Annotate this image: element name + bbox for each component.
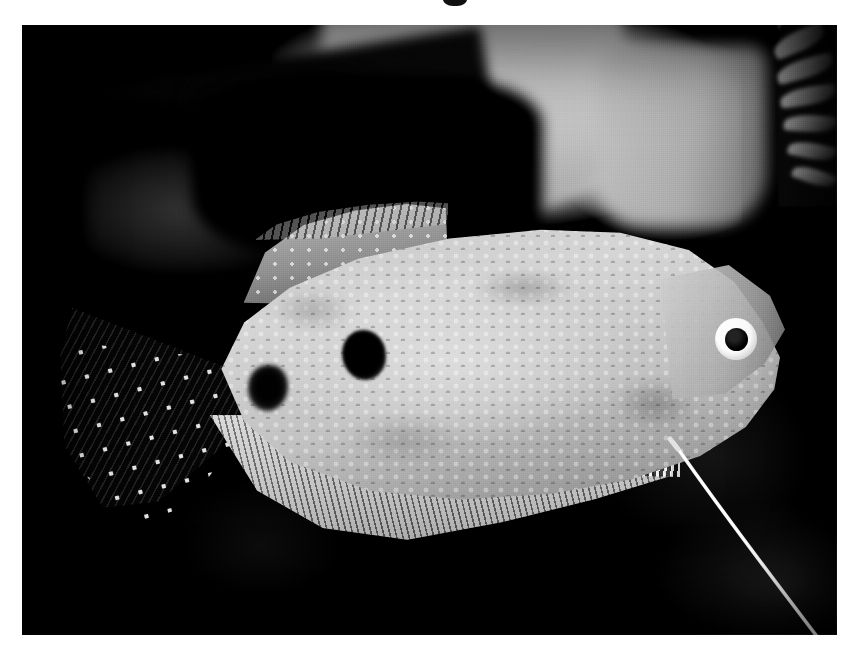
pelvic-filament	[620, 435, 837, 635]
photo-page	[0, 0, 862, 656]
plant-leaves-upper-right	[778, 25, 837, 207]
leaf-icon	[791, 162, 837, 191]
gourami-fish	[60, 190, 780, 550]
photograph	[22, 25, 837, 635]
leaf-icon	[783, 113, 836, 134]
spot-mid-body	[342, 330, 386, 380]
cropped-heading-descender-artifact	[443, 0, 467, 6]
fish-eye-pupil	[725, 328, 748, 351]
leaf-icon	[779, 83, 837, 109]
leaf-icon	[787, 138, 837, 164]
